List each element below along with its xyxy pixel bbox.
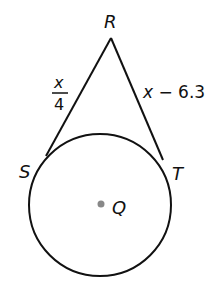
label-r: R xyxy=(104,11,117,32)
label-t: T xyxy=(172,163,185,184)
center-dot xyxy=(98,201,105,208)
rt-length: x − 6.3 xyxy=(142,82,205,102)
geometry-diagram: R S T Q x 4 x − 6.3 xyxy=(0,0,217,292)
rs-numerator: x xyxy=(53,73,64,92)
label-q: Q xyxy=(112,197,126,218)
label-s: S xyxy=(19,161,30,182)
rs-denominator: 4 xyxy=(54,95,64,114)
